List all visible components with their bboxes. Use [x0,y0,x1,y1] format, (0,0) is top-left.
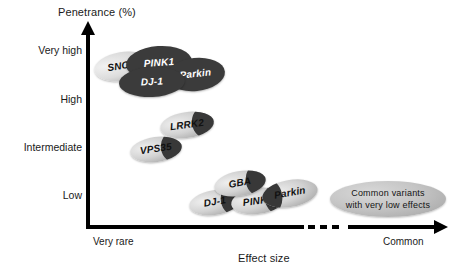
common-variants-blob[interactable]: Common variants with very low effects [330,181,446,217]
x-axis-arrowhead-icon [434,220,448,234]
x-axis-line-left-segment [86,225,304,229]
gene-blob-vps35[interactable]: VPS35 [129,134,184,166]
common-variants-line-2: with very low effects [346,200,431,210]
common-variants-line-1: Common variants [351,188,425,198]
y-axis-line [86,33,90,229]
x-tick-common: Common [383,236,424,247]
penetrance-effect-size-figure: Penetrance (%) Effect size Very high Hig… [0,0,462,276]
gene-blob-parkin-bottom[interactable]: Parkin [260,175,320,211]
x-axis-title: Effect size [238,252,290,264]
common-variants-blob-label: Common variants with very low effects [346,187,431,211]
x-axis-break-dashes [308,225,348,229]
x-tick-very-rare: Very rare [93,236,134,247]
gene-blob-dj1-top-label: DJ-1 [140,76,163,88]
y-axis-title: Penetrance (%) [58,6,136,18]
x-axis-line-right-segment [348,225,436,229]
